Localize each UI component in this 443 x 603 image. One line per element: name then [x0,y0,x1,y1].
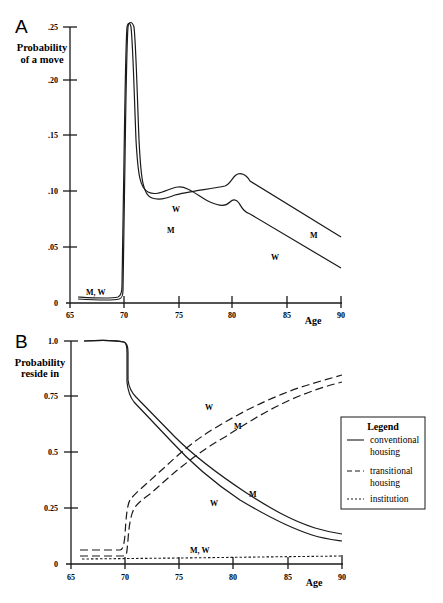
panel-b-xtick: 75 [175,573,183,582]
legend-conventional-line1: conventional [370,435,419,445]
panel-a-xtick: 65 [66,311,74,320]
panel-b-xtick: 90 [338,573,346,582]
panel-b-ylabel-line2: reside in [21,368,59,379]
panel-a-xtick: 75 [175,311,183,320]
panel-b-xlabel: Age [306,577,323,588]
legend-conventional-line2: housing [370,447,400,457]
legend-institution: institution [370,494,409,504]
panel-b-ytick: 0.75 [44,392,58,401]
panel-a-ytick: .20 [48,76,58,85]
panel-a-ytick: .25 [48,23,58,32]
panel-b-label-w-transitional: W [205,403,213,412]
panel-b-ytick: 0.5 [48,448,58,457]
panel-a-label-mw: M, W [86,288,105,297]
panel-a-label-w1: W [172,205,180,214]
panel-a-xlabel: Age [305,315,322,326]
panel-b-xtick: 80 [229,573,237,582]
legend-title: Legend [367,421,399,432]
panel-a-xtick: 90 [337,311,345,320]
panel-b-conventional-w [84,340,342,541]
panel-b-ytick: 0 [54,560,58,569]
panel-a-letter: A [15,16,28,37]
panel-a: A Probability of a move .25 .20 .15 .10 … [15,16,345,326]
panel-a-label-m2: M [310,231,318,240]
panel-b-x-ticks [71,555,342,569]
legend-transitional-line2: housing [370,478,400,488]
panel-b-xtick: 85 [284,573,292,582]
panel-b-ytick: 0.25 [44,504,58,513]
panel-b-label-w-conventional: W [210,499,218,508]
panel-a-curve-m [78,23,341,301]
panel-b-letter: B [15,331,28,352]
panel-b-label-mw-institution: M, W [190,546,209,555]
panel-b-label-m-conventional: M [249,490,257,499]
panel-b-ytick: 1.0 [48,337,58,346]
figure: A Probability of a move .25 .20 .15 .10 … [0,0,443,603]
panel-a-xtick: 80 [228,311,236,320]
panel-a-ytick: .10 [48,187,58,196]
panel-b: B Probability reside in 1.0 0.75 0.5 0.2… [15,331,425,588]
panel-a-label-w2: W [271,253,279,262]
panel-b-xtick: 65 [67,573,75,582]
panel-a-ylabel-line2: of a move [20,54,63,65]
panel-a-ylabel-line1: Probability [17,42,68,53]
panel-b-xtick: 70 [121,573,129,582]
legend: Legend conventional housing transitional… [341,417,425,509]
panel-a-label-m1: M [167,226,175,235]
panel-b-label-m-transitional: M [234,422,242,431]
panel-a-ytick: .15 [48,131,58,140]
panel-a-curve-w [78,23,341,298]
legend-transitional-line1: transitional [370,466,413,476]
panel-a-xtick: 70 [120,311,128,320]
panel-a-xtick: 85 [283,311,291,320]
panel-a-ytick: .05 [48,243,58,252]
panel-b-ylabel-line1: Probability [15,357,66,368]
panel-a-ytick: 0 [54,299,58,308]
